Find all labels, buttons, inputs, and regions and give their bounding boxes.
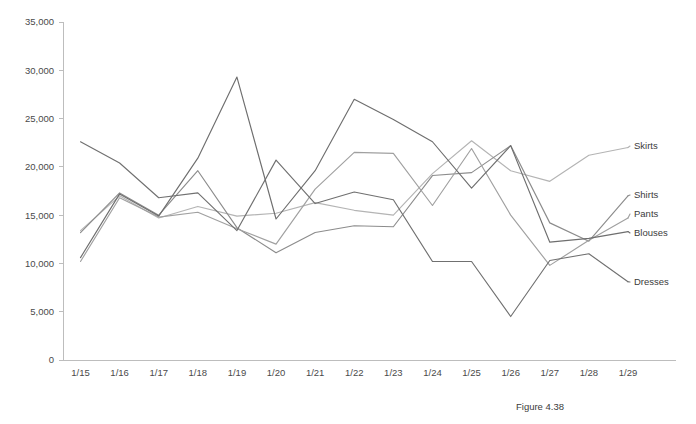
x-tick-label: 1/21 xyxy=(306,367,325,378)
leader-line-pants xyxy=(628,214,630,218)
series-label-skirts: Skirts xyxy=(634,140,658,151)
x-tick-label: 1/19 xyxy=(228,367,247,378)
y-tick-label: 5,000 xyxy=(30,306,54,317)
series-line-dresses xyxy=(81,142,629,317)
y-tick-label: 35,000 xyxy=(25,16,54,27)
series-label-dresses: Dresses xyxy=(634,276,669,287)
series-line-shirts xyxy=(81,146,629,253)
line-chart: 35,00030,00025,00020,00015,00010,0005,00… xyxy=(0,0,696,424)
y-tick-label: 20,000 xyxy=(25,161,54,172)
x-tick-label: 1/26 xyxy=(501,367,520,378)
series-label-pants: Pants xyxy=(634,208,659,219)
leader-line-shirts xyxy=(628,195,630,196)
data-series-group xyxy=(81,77,629,316)
x-tick-label: 1/25 xyxy=(462,367,481,378)
series-line-pants xyxy=(81,149,629,266)
x-axis: 1/151/161/171/181/191/201/211/221/231/24… xyxy=(64,361,677,379)
y-axis: 35,00030,00025,00020,00015,00010,0005,00… xyxy=(25,16,64,365)
y-tick-label: 30,000 xyxy=(25,65,54,76)
x-tick-label: 1/28 xyxy=(580,367,599,378)
x-tick-label: 1/23 xyxy=(384,367,403,378)
x-tick-label: 1/22 xyxy=(345,367,364,378)
y-tick-label: 15,000 xyxy=(25,210,54,221)
x-tick-label: 1/18 xyxy=(189,367,208,378)
x-tick-label: 1/24 xyxy=(423,367,442,378)
x-tick-label: 1/16 xyxy=(110,367,129,378)
figure-caption: Figure 4.38 xyxy=(516,401,564,412)
x-tick-label: 1/20 xyxy=(267,367,286,378)
x-tick-label: 1/17 xyxy=(149,367,168,378)
y-tick-label: 0 xyxy=(49,354,54,365)
y-tick-label: 25,000 xyxy=(25,113,54,124)
y-tick-label: 10,000 xyxy=(25,258,54,269)
series-label-blouses: Blouses xyxy=(634,227,668,238)
figure-container: 35,00030,00025,00020,00015,00010,0005,00… xyxy=(0,0,696,424)
series-leader-lines xyxy=(628,146,630,282)
x-tick-label: 1/15 xyxy=(71,367,90,378)
x-tick-label: 1/29 xyxy=(619,367,638,378)
x-tick-label: 1/27 xyxy=(541,367,560,378)
leader-line-skirts xyxy=(628,146,630,148)
series-line-blouses xyxy=(81,77,629,258)
series-label-shirts: Shirts xyxy=(634,189,659,200)
series-labels: SkirtsShirtsPantsBlousesDresses xyxy=(634,140,669,287)
leader-line-blouses xyxy=(628,232,630,233)
